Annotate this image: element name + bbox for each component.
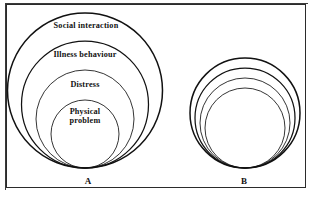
panel-a-rings [8,13,163,168]
ring-b-distress [200,78,290,168]
ring-label-physical-problem: Physical problem [70,108,101,126]
panel-label-b: B [241,176,247,186]
panel-b-rings [190,58,300,168]
panel-label-a: A [85,176,92,186]
ring-label-illness-behaviour: Illness behaviour [53,51,116,60]
ring-label-distress: Distress [70,81,99,90]
nested-circles-diagram [0,0,319,197]
ring-a-illness-behaviour [22,41,149,168]
ring-b-physical-problem [205,88,285,168]
ring-b-social-interaction [190,58,300,168]
figure-page: Social interaction Illness behaviour Dis… [0,0,319,197]
ring-b-illness-behaviour [195,68,295,168]
ring-a-social-interaction [8,13,163,168]
ring-label-social-interaction: Social interaction [54,22,119,31]
